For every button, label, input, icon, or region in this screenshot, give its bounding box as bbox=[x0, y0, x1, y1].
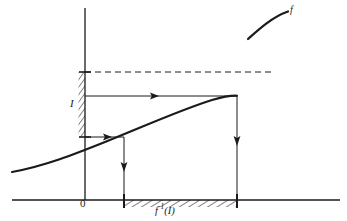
legend-curve bbox=[248, 12, 288, 40]
preimage-label-argument: (I) bbox=[164, 205, 175, 216]
function-preimage-diagram bbox=[0, 0, 347, 221]
interval-i-label: I bbox=[70, 98, 74, 109]
function-curve-label: f bbox=[290, 5, 293, 15]
figure-container: 0 I f-1(I) f bbox=[0, 0, 347, 221]
preimage-label: f-1(I) bbox=[155, 203, 175, 216]
origin-label: 0 bbox=[80, 198, 86, 209]
preimage-interval-hatch bbox=[124, 200, 237, 207]
interval-i-hatch bbox=[79, 72, 86, 137]
